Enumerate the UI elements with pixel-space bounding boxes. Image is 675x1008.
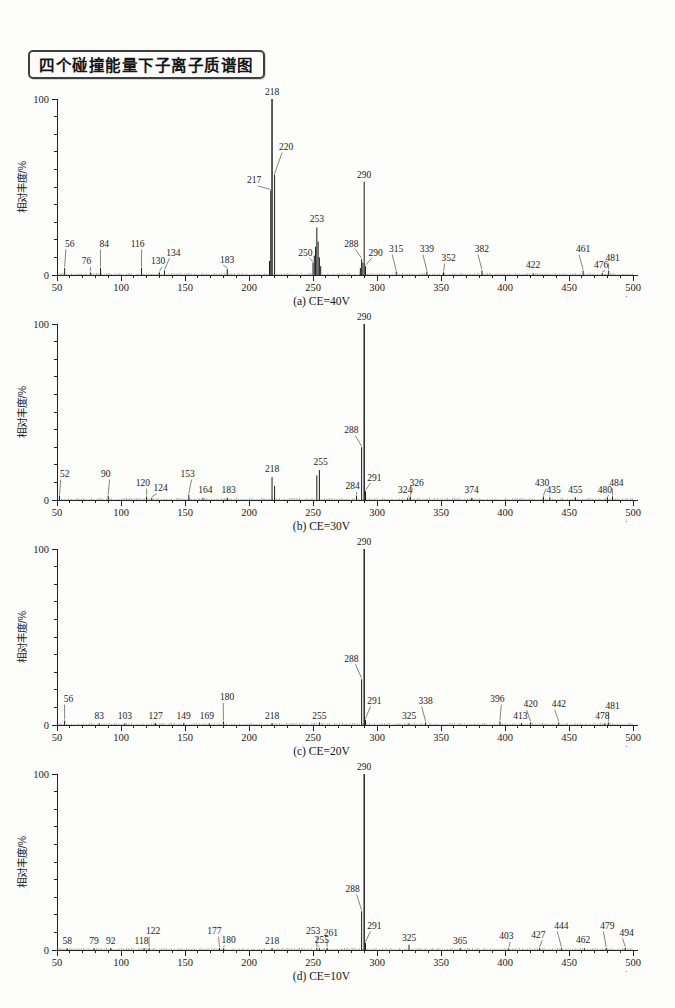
svg-text:400: 400	[497, 732, 513, 743]
axes	[52, 774, 638, 956]
peak-label-291: 291	[367, 473, 382, 483]
peak-label-288: 288	[344, 425, 359, 435]
peak-label-103: 103	[118, 711, 133, 721]
peak-label-169: 169	[200, 711, 215, 721]
svg-text:200: 200	[241, 957, 257, 968]
peak-label-374: 374	[465, 485, 480, 495]
panel-caption-c: (c) CE=20V	[0, 745, 659, 757]
svg-text:350: 350	[433, 957, 449, 968]
tick-labels: 100050100150200250300350400450500	[33, 94, 641, 294]
peak-label-134: 134	[166, 248, 181, 258]
svg-text:50: 50	[52, 282, 63, 293]
peak-label-291: 291	[367, 696, 382, 706]
peak-label-284: 284	[346, 481, 361, 491]
svg-text:0: 0	[44, 720, 49, 731]
svg-text:100: 100	[33, 769, 49, 780]
svg-text:400: 400	[497, 282, 513, 293]
peak-label-118: 118	[135, 936, 149, 946]
svg-text:300: 300	[369, 507, 385, 518]
spectrum-plot-a: 100050100150200250300350400450500m/z相对丰度…	[0, 87, 675, 297]
figure-title: 四个碰撞能量下子离子质谱图	[28, 50, 265, 79]
tick-labels: 100050100150200250300350400450500	[33, 769, 641, 969]
peak-label-291: 291	[367, 921, 382, 931]
peak-label-180: 180	[221, 935, 236, 945]
svg-text:500: 500	[625, 282, 641, 293]
peak-label-339: 339	[420, 244, 435, 254]
peaks	[60, 324, 613, 500]
svg-text:500: 500	[625, 957, 641, 968]
peak-label-478: 478	[595, 711, 610, 721]
svg-text:100: 100	[33, 94, 49, 105]
peak-label-261: 261	[324, 928, 339, 938]
peak-label-92: 92	[106, 936, 116, 946]
peak-label-290: 290	[357, 170, 372, 180]
svg-text:100: 100	[113, 507, 129, 518]
peak-label-218: 218	[265, 464, 280, 474]
peak-label-218: 218	[265, 711, 280, 721]
peak-label-76: 76	[82, 256, 92, 266]
svg-text:200: 200	[241, 282, 257, 293]
svg-text:150: 150	[177, 957, 193, 968]
svg-text:250: 250	[305, 507, 321, 518]
peak-label-290: 290	[357, 762, 372, 772]
peak-label-403: 403	[499, 931, 514, 941]
svg-text:100: 100	[33, 544, 49, 555]
peak-label-420: 420	[523, 699, 538, 709]
peaks	[65, 99, 609, 275]
peak-label-255: 255	[314, 457, 329, 467]
peak-label-444: 444	[554, 921, 569, 931]
peak-label-84: 84	[100, 239, 110, 249]
peak-label-413: 413	[513, 711, 528, 721]
svg-text:150: 150	[177, 507, 193, 518]
peak-label-79: 79	[89, 936, 99, 946]
peak-label-164: 164	[198, 485, 213, 495]
axes	[52, 99, 638, 281]
y-axis-title: 相对丰度/%	[16, 161, 28, 213]
svg-text:0: 0	[44, 945, 49, 956]
peak-label-396: 396	[490, 694, 505, 704]
svg-text:100: 100	[113, 957, 129, 968]
svg-text:500: 500	[625, 732, 641, 743]
peak-label-288: 288	[346, 884, 361, 894]
svg-text:450: 450	[561, 507, 577, 518]
peak-label-288: 288	[344, 239, 359, 249]
peak-labels: 5676841161301341832172182202502532882902…	[65, 87, 620, 269]
peak-label-149: 149	[177, 711, 192, 721]
peak-label-116: 116	[131, 239, 145, 249]
leader-lines	[65, 153, 609, 272]
svg-text:450: 450	[561, 957, 577, 968]
svg-text:100: 100	[33, 319, 49, 330]
peak-label-218: 218	[265, 87, 280, 97]
peak-label-365: 365	[453, 936, 468, 946]
peak-label-325: 325	[402, 933, 417, 943]
peak-label-218: 218	[265, 936, 280, 946]
panel-caption-d: (d) CE=10V	[0, 970, 659, 982]
svg-text:250: 250	[305, 957, 321, 968]
peak-label-461: 461	[576, 244, 591, 254]
spectrum-plot-d: 100050100150200250300350400450500m/z相对丰度…	[0, 762, 675, 972]
peak-label-90: 90	[101, 469, 111, 479]
spectrum-panel-a: 100050100150200250300350400450500m/z相对丰度…	[0, 87, 675, 312]
peak-label-56: 56	[64, 694, 74, 704]
peak-label-462: 462	[576, 935, 591, 945]
svg-text:450: 450	[561, 282, 577, 293]
spectrum-panel-c: 100050100150200250300350400450500m/z相对丰度…	[0, 537, 675, 762]
peak-label-325: 325	[402, 711, 417, 721]
svg-text:200: 200	[241, 507, 257, 518]
peak-label-288: 288	[344, 654, 359, 664]
svg-text:150: 150	[177, 732, 193, 743]
peak-label-56: 56	[65, 239, 75, 249]
peak-label-481: 481	[605, 253, 620, 263]
svg-text:350: 350	[433, 507, 449, 518]
peaks	[67, 774, 625, 950]
svg-text:300: 300	[369, 282, 385, 293]
peak-label-153: 153	[180, 469, 195, 479]
peak-label-180: 180	[220, 692, 235, 702]
peak-label-177: 177	[207, 926, 222, 936]
svg-text:350: 350	[433, 732, 449, 743]
peak-label-427: 427	[531, 930, 546, 940]
y-axis-title: 相对丰度/%	[16, 836, 28, 888]
svg-text:50: 50	[52, 507, 63, 518]
svg-text:300: 300	[369, 732, 385, 743]
svg-text:400: 400	[497, 957, 513, 968]
